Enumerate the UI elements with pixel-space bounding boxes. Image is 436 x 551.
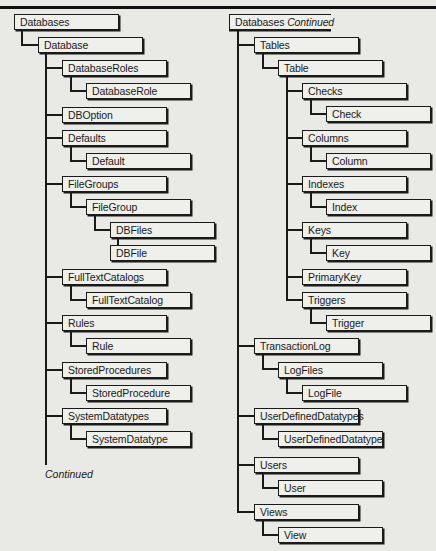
connector bbox=[262, 368, 278, 370]
connector bbox=[310, 160, 326, 162]
node-primarykey: PrimaryKey bbox=[302, 269, 407, 285]
node-filegroups: FileGroups bbox=[62, 176, 167, 192]
node-database: Database bbox=[38, 37, 143, 53]
connector bbox=[70, 206, 86, 208]
node-systemdatatypes: SystemDatatypes bbox=[62, 408, 167, 424]
connector bbox=[286, 276, 302, 278]
node-indexes: Indexes bbox=[302, 176, 407, 192]
connector bbox=[262, 438, 278, 440]
connector bbox=[262, 67, 278, 69]
node-dbfiles: DBFiles bbox=[110, 222, 215, 238]
node-storedprocedure: StoredProcedure bbox=[86, 385, 191, 401]
node-fulltextcatalog: FullTextCatalog bbox=[86, 292, 191, 308]
node-rule: Rule bbox=[86, 338, 191, 354]
node-table: Table bbox=[278, 60, 383, 76]
node-defaults: Defaults bbox=[62, 130, 167, 146]
root-suffix: Continued bbox=[287, 16, 334, 28]
node-keys: Keys bbox=[302, 222, 407, 238]
connector bbox=[45, 415, 62, 417]
node-tables: Tables bbox=[254, 37, 359, 53]
connector bbox=[45, 137, 62, 139]
connector bbox=[310, 322, 326, 324]
node-storedprocedures: StoredProcedures bbox=[62, 362, 167, 378]
connector bbox=[21, 44, 38, 46]
node-databaseroles: DatabaseRoles bbox=[62, 60, 167, 76]
node-dbfile: DBFile bbox=[110, 245, 215, 261]
connector bbox=[286, 229, 302, 231]
connector bbox=[70, 90, 86, 92]
node-views: Views bbox=[254, 504, 359, 520]
node-index: Index bbox=[326, 199, 431, 215]
connector bbox=[70, 392, 86, 394]
connector bbox=[310, 113, 326, 115]
connector bbox=[45, 114, 62, 116]
node-trigger: Trigger bbox=[326, 315, 431, 331]
connector bbox=[286, 137, 302, 139]
connector bbox=[45, 183, 62, 185]
node-checks: Checks bbox=[302, 83, 407, 99]
connector bbox=[286, 90, 302, 92]
connector bbox=[70, 160, 86, 162]
connector bbox=[45, 67, 62, 69]
connector bbox=[262, 487, 278, 489]
node-databaserole: DatabaseRole bbox=[86, 83, 191, 99]
connector bbox=[237, 30, 239, 513]
top-rule bbox=[0, 6, 436, 9]
node-user: User bbox=[278, 480, 383, 496]
connector bbox=[70, 438, 86, 440]
node-systemdatatype: SystemDatatype bbox=[86, 431, 191, 447]
node-filegroup: FileGroup bbox=[86, 199, 191, 215]
connector bbox=[70, 345, 86, 347]
node-logfile: LogFile bbox=[302, 385, 407, 401]
connector bbox=[237, 345, 254, 347]
node-fulltextcatalogs: FullTextCatalogs bbox=[62, 269, 167, 285]
node-column: Column bbox=[326, 153, 431, 169]
connector bbox=[310, 206, 326, 208]
connector bbox=[286, 76, 288, 300]
connector bbox=[310, 252, 326, 254]
node-rules: Rules bbox=[62, 315, 167, 331]
connector bbox=[70, 299, 86, 301]
connector bbox=[262, 534, 278, 536]
connector bbox=[286, 392, 302, 394]
connector bbox=[117, 238, 119, 245]
connector bbox=[237, 511, 254, 513]
node-databases-continued: Databases Continued bbox=[229, 14, 331, 30]
connector bbox=[45, 369, 62, 371]
connector bbox=[286, 183, 302, 185]
connector bbox=[237, 415, 254, 417]
node-logfiles: LogFiles bbox=[278, 362, 383, 378]
connector bbox=[94, 229, 110, 231]
node-dboption: DBOption bbox=[62, 107, 167, 123]
connector bbox=[45, 322, 62, 324]
node-userdefineddatatypes: UserDefinedDatatypes bbox=[254, 408, 359, 424]
root-label: Databases bbox=[235, 16, 284, 28]
connector bbox=[286, 299, 302, 301]
node-users: Users bbox=[254, 457, 359, 473]
node-columns: Columns bbox=[302, 130, 407, 146]
node-databases: Databases bbox=[14, 14, 119, 30]
node-check: Check bbox=[326, 106, 431, 122]
node-default: Default bbox=[86, 153, 191, 169]
node-triggers: Triggers bbox=[302, 292, 407, 308]
node-transactionlog: TransactionLog bbox=[254, 338, 359, 354]
connector bbox=[237, 44, 254, 46]
node-userdefineddatatype: UserDefinedDatatype bbox=[278, 431, 383, 447]
continued-label: Continued bbox=[45, 468, 93, 480]
connector bbox=[45, 276, 62, 278]
node-view: View bbox=[278, 527, 383, 543]
connector bbox=[237, 464, 254, 466]
node-key: Key bbox=[326, 245, 431, 261]
